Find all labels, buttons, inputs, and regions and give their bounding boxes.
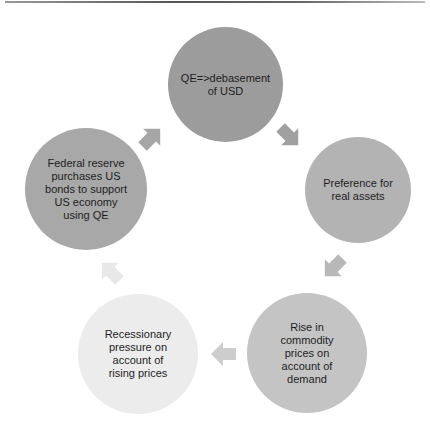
arrow-up-left-icon <box>97 258 125 286</box>
node-commodity-price-rise: Rise in commodity prices on account of d… <box>247 293 367 413</box>
node-recessionary-pressure: Recessionary pressure on account of risi… <box>78 294 198 414</box>
node-preference-real-assets: Preference for real assets <box>305 137 411 243</box>
arrow-up-right-icon <box>137 124 165 152</box>
node-label: Recessionary pressure on account of risi… <box>105 328 172 380</box>
node-fed-bond-purchases: Federal reserve purchases US bonds to su… <box>25 128 147 250</box>
node-label: QE=>debasement of USD <box>181 72 270 98</box>
node-label: Preference for real assets <box>323 177 393 203</box>
arrow-down-right-icon <box>275 122 303 150</box>
arrow-left-icon <box>210 340 238 368</box>
arrow-down-left-icon <box>320 253 348 281</box>
node-label: Rise in commodity prices on account of d… <box>280 321 333 386</box>
node-qe-debasement: QE=>debasement of USD <box>168 27 283 142</box>
node-label: Federal reserve purchases US bonds to su… <box>45 157 127 222</box>
top-border-rule <box>5 1 425 3</box>
